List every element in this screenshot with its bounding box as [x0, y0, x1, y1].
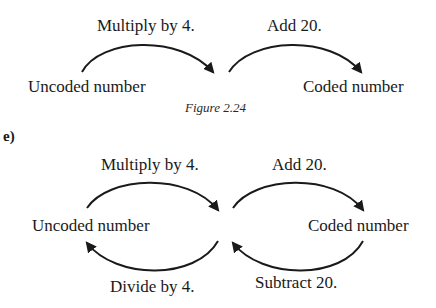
part-label: e): [3, 129, 15, 144]
arrow-bottom-subtract: [233, 241, 363, 271]
flow-diagram-page: Multiply by 4. Add 20. Uncoded number Co…: [0, 0, 436, 308]
bottom-op-multiply-label: Multiply by 4.: [101, 156, 199, 173]
top-op-multiply-label: Multiply by 4.: [97, 17, 195, 34]
top-coded-number-label: Coded number: [303, 78, 404, 95]
bottom-op-divide-label: Divide by 4.: [110, 278, 195, 295]
arrow-bottom-add: [233, 183, 363, 210]
bottom-op-subtract-label: Subtract 20.: [255, 274, 337, 291]
arrows-layer: [0, 0, 436, 308]
bottom-uncoded-number-label: Uncoded number: [32, 217, 150, 234]
arrow-top-multiply: [82, 45, 213, 72]
arrow-bottom-divide: [87, 241, 218, 271]
figure-caption: Figure 2.24: [185, 101, 246, 114]
arrow-bottom-multiply: [87, 183, 218, 210]
bottom-op-add-label: Add 20.: [272, 156, 327, 173]
top-op-add-label: Add 20.: [267, 17, 322, 34]
top-uncoded-number-label: Uncoded number: [28, 78, 146, 95]
bottom-coded-number-label: Coded number: [308, 217, 409, 234]
arrow-top-add: [229, 45, 361, 72]
